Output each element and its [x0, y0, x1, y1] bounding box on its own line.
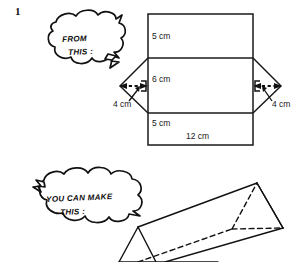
prism-hidden-far-bottom [232, 228, 283, 229]
prism-near-apex-to-left [119, 227, 138, 262]
worksheet-page: 1 [0, 0, 307, 262]
prism-top-ridge [138, 183, 257, 227]
net-label-left-triangle-height: 4 cm [113, 99, 131, 109]
bubble-2-line-2: THIS : [60, 207, 85, 217]
net-label-width: 12 cm [186, 131, 209, 141]
net-label-top-height: 5 cm [152, 31, 170, 41]
prism-hidden-far-left [232, 183, 257, 229]
net-right-arrowhead-inner [253, 83, 261, 89]
triangular-prism-net [119, 14, 282, 145]
net-left-arrowhead-inner [140, 83, 148, 89]
prism-far-triangle-right [257, 183, 283, 228]
prism-near-apex-to-base [138, 227, 156, 262]
bubble-1-line-2: THIS : [68, 47, 93, 57]
net-label-bottom-height: 5 cm [152, 118, 170, 128]
triangular-prism-solid [119, 183, 283, 262]
net-label-right-triangle-height: 4 cm [272, 99, 290, 109]
bubble-1-line-1: FROM [62, 34, 87, 44]
prism-hidden-long-edge [138, 229, 232, 262]
net-label-middle-height: 6 cm [152, 74, 170, 84]
prism-hidden-edges [138, 183, 283, 262]
prism-lower-right-long-edge [165, 228, 283, 262]
